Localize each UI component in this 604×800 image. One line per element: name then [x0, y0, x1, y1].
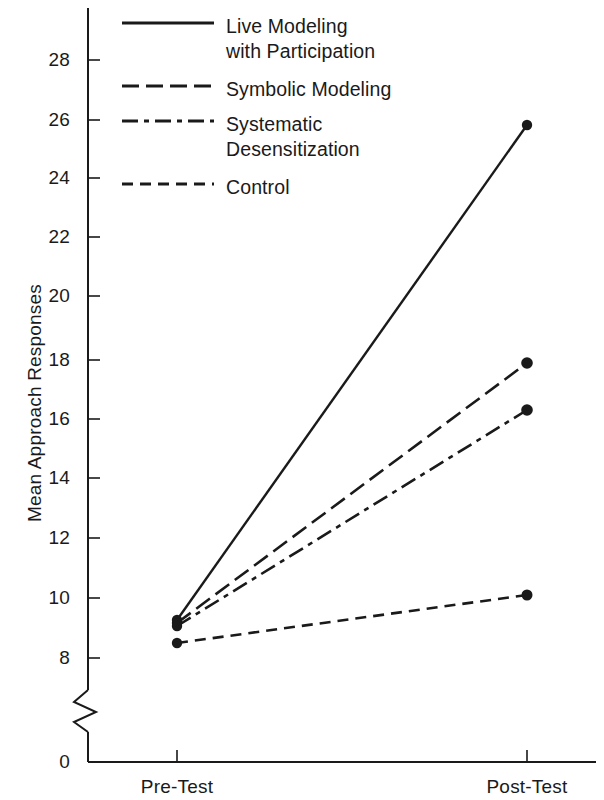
data-point-control-pre-test: [172, 638, 182, 648]
series-line-control: [177, 595, 527, 643]
data-point-live-modeling-post-test: [522, 120, 532, 130]
data-point-systematic-desensitization-post-test: [521, 404, 533, 416]
series-line-symbolic-modeling: [177, 363, 527, 623]
data-point-control-post-test: [522, 590, 533, 601]
series-line-systematic-desensitization: [177, 410, 527, 626]
x-tick-marks: [177, 750, 527, 762]
series-line-live-modeling: [177, 125, 527, 620]
axis-break-zigzag: [74, 690, 96, 732]
data-point-systematic-desensitization-pre-test: [172, 621, 182, 631]
plot-area: [0, 0, 604, 800]
data-point-symbolic-modeling-post-test: [521, 357, 533, 369]
chart-figure: Mean Approach Responses 28 26 24 22 20 1…: [0, 0, 604, 800]
y-tick-marks: [88, 60, 100, 658]
